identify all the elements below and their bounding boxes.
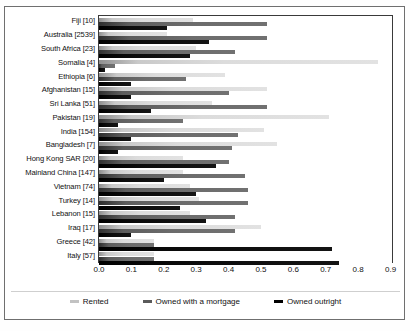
bar-group [99, 181, 392, 195]
legend-item[interactable]: Owned with a mortgage [143, 297, 241, 306]
category-label: Australia [2539] [0, 31, 95, 39]
category-label: Mainland China [147] [0, 169, 95, 177]
bar-group [99, 112, 392, 126]
category-label: Bangladesh [7] [0, 141, 95, 149]
x-tick-label: 0.3 [191, 265, 202, 274]
x-tick-label: 0.2 [158, 265, 169, 274]
category-label: Ethiopia [6] [0, 73, 95, 81]
category-label: India [154] [0, 128, 95, 136]
x-tick-label: 0.7 [320, 265, 331, 274]
x-tick-label: 0.9 [385, 265, 396, 274]
bar-group [99, 16, 392, 30]
category-label: Sri Lanka [51] [0, 100, 95, 108]
category-label: Fiji [10] [0, 17, 95, 25]
legend-divider [11, 291, 400, 292]
bar-group [99, 71, 392, 85]
x-tick-label: 0.0 [93, 265, 104, 274]
category-label: South Africa [23] [0, 45, 95, 53]
legend-label: Owned with a mortgage [156, 297, 241, 306]
legend-label: Rented [83, 297, 109, 306]
bar-group [99, 126, 392, 140]
chart-plot-wrapper: Fiji [10]Australia [2539]South Africa [2… [5, 7, 406, 321]
legend-swatch-outright [274, 300, 283, 303]
legend-label: Owned outright [287, 297, 341, 306]
category-label: Afghanistan [15] [0, 86, 95, 94]
x-tick-label: 0.1 [126, 265, 137, 274]
chart-frame: Fiji [10]Australia [2539]South Africa [2… [4, 6, 405, 320]
category-label: Hong Kong SAR [20] [0, 155, 95, 163]
legend-swatch-mortgage [143, 300, 152, 303]
bar-group [99, 250, 392, 264]
category-label: Greece [42] [0, 238, 95, 246]
x-tick-label: 0.6 [288, 265, 299, 274]
category-label: Iraq [17] [0, 224, 95, 232]
chart-legend: RentedOwned with a mortgageOwned outrigh… [5, 291, 406, 311]
bar-rented [99, 60, 378, 64]
bar-group [99, 195, 392, 209]
x-axis-ticks: 0.00.10.20.30.40.50.60.70.80.9 [98, 263, 393, 279]
x-tick-label: 0.8 [353, 265, 364, 274]
chart-root: Fiji [10]Australia [2539]South Africa [2… [0, 0, 410, 331]
plot-area [98, 15, 393, 263]
bar-mortgage [99, 146, 232, 150]
category-label: Lebanon [15] [0, 210, 95, 218]
bar-group [99, 85, 392, 99]
category-label: Italy [57] [0, 252, 95, 260]
legend-item[interactable]: Owned outright [274, 297, 341, 306]
bar-group [99, 223, 392, 237]
bar-group [99, 140, 392, 154]
category-label: Pakistan [19] [0, 114, 95, 122]
category-label: Turkey [14] [0, 197, 95, 205]
category-label: Somalia [4] [0, 59, 95, 67]
bar-group [99, 209, 392, 223]
bar-group [99, 99, 392, 113]
legend-item[interactable]: Rented [70, 297, 109, 306]
legend-swatch-rented [70, 300, 79, 303]
category-label: Vietnam [74] [0, 183, 95, 191]
bar-group [99, 44, 392, 58]
bar-group [99, 168, 392, 182]
x-tick-label: 0.5 [255, 265, 266, 274]
category-axis-labels: Fiji [10]Australia [2539]South Africa [2… [5, 15, 97, 263]
x-tick-label: 0.4 [223, 265, 234, 274]
bar-group [99, 30, 392, 44]
bar-group [99, 154, 392, 168]
bar-group [99, 57, 392, 71]
bar-group [99, 236, 392, 250]
